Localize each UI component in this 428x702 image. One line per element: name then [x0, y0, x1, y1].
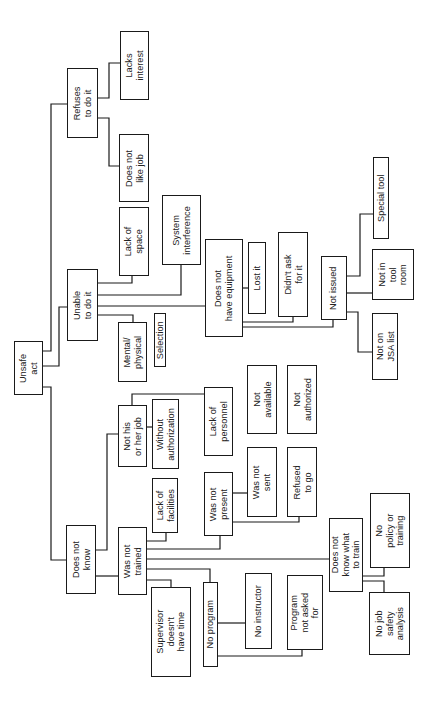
node-not-in-tool-room: Not in tool room — [372, 249, 414, 300]
node-label: Not his or her job — [122, 417, 143, 456]
node-unsafe-act: Unsafe act — [14, 341, 43, 395]
node-selection: Selection — [154, 313, 166, 367]
node-label: Selection — [155, 321, 166, 359]
node-without-authorization: Without authorization — [152, 399, 179, 469]
node-not-issued: Not issued — [321, 256, 347, 320]
node-unable-to-do-it: Unable to do it — [67, 269, 98, 341]
node-lost-it: Lost it — [248, 242, 266, 314]
node-lack-of-space: Lack of space — [119, 207, 149, 276]
node-no-instructor: No instructor — [245, 573, 272, 649]
node-program-not-asked-for: Program not asked for — [287, 575, 323, 650]
node-label: Lacks interest — [124, 50, 145, 80]
node-label: No instructor — [253, 585, 264, 637]
node-refused-to-go: Refused to go — [287, 447, 317, 517]
node-label: Didn't ask for it — [283, 254, 304, 294]
node-label: Was not present — [208, 487, 229, 520]
node-label: Refuses to do it — [72, 86, 93, 120]
node-refuses-to-do-it: Refuses to do it — [67, 68, 98, 138]
node-label: No program — [205, 600, 216, 649]
node-label: Unable to do it — [72, 290, 93, 319]
node-no-policy-or-training: No policy or training — [370, 493, 410, 568]
node-was-not-trained: Was not trained — [118, 527, 147, 595]
node-label: Does not like job — [124, 150, 145, 187]
node-does-not-know: Does not know — [66, 525, 96, 594]
node-label: System interference — [171, 206, 192, 255]
node-label: Does not know — [71, 541, 92, 578]
node-label: Lost it — [252, 266, 263, 291]
node-label: No job safety analysis — [374, 607, 406, 640]
node-label: No policy or training — [374, 513, 406, 547]
node-label: Lack of facilities — [155, 489, 176, 522]
node-label: Unsafe act — [18, 353, 39, 382]
node-label: Not in tool room — [377, 262, 409, 286]
node-supervisor-doesnt-have-time: Supervisor doesn't have time — [151, 587, 191, 677]
node-not-on-jsa-list: Not on JSA list — [372, 313, 398, 380]
node-no-job-safety-analysis: No job safety analysis — [369, 592, 410, 655]
node-label: Not available — [252, 381, 273, 417]
node-label: Not issued — [329, 266, 340, 309]
node-label: Was not trained — [122, 544, 143, 577]
node-label: Program not asked for — [289, 593, 321, 633]
node-not-available: Not available — [247, 365, 277, 434]
node-label: Without authorization — [155, 408, 176, 461]
node-not-authorized: Not authorized — [287, 365, 317, 434]
node-label: Not authorized — [292, 378, 313, 421]
node-lack-of-personnel: Lack of personnel — [204, 387, 233, 456]
node-lacks-interest: Lacks interest — [120, 31, 149, 100]
node-system-interference: System interference — [162, 195, 201, 265]
fault-tree-diagram: Unsafe act Refuses to do it Lacks intere… — [0, 0, 428, 702]
node-does-not-know-what-to-train: Does not know what to train — [329, 518, 363, 592]
node-label: Was not sent — [252, 465, 273, 498]
node-label: Does not know what to train — [330, 533, 362, 576]
node-does-not-have-equipment: Does not have equipment — [205, 239, 243, 337]
node-not-his-or-her-job: Not his or her job — [118, 405, 147, 467]
node-lack-of-facilities: Lack of facilities — [152, 478, 178, 533]
node-label: Lack of personnel — [208, 401, 229, 441]
node-label: Supervisor doesn't have time — [155, 610, 187, 654]
node-label: Mental/ physical — [122, 335, 143, 368]
node-mental-physical: Mental/ physical — [118, 322, 147, 382]
node-label: Not on JSA list — [375, 331, 396, 361]
node-label: Special tool — [376, 174, 387, 222]
node-label: Does not have equipment — [214, 255, 235, 320]
node-does-not-like-job: Does not like job — [119, 134, 149, 202]
node-special-tool: Special tool — [373, 157, 389, 239]
node-didnt-ask-for-it: Didn't ask for it — [278, 232, 308, 317]
node-no-program: No program — [203, 582, 218, 667]
node-label: Lack of space — [124, 227, 145, 257]
node-was-not-present: Was not present — [204, 472, 233, 536]
node-was-not-sent: Was not sent — [247, 447, 277, 517]
node-label: Refused to go — [292, 465, 313, 499]
